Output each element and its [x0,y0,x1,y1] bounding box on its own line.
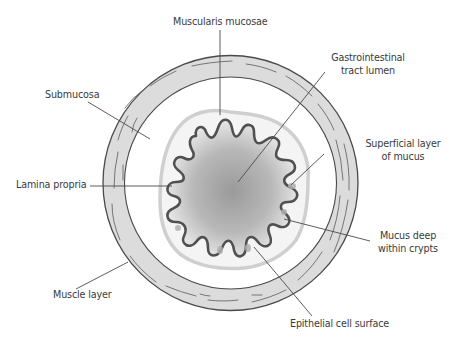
label-mucus-crypts: Mucus deep within crypts [368,230,448,255]
label-superficial-mucus-line1: Superficial layer [357,138,449,151]
label-lamina-propria: Lamina propria [16,179,86,192]
label-muscle-layer: Muscle layer [53,289,112,302]
label-submucosa: Submucosa [45,89,99,102]
leader-muscle-layer [76,262,128,289]
label-muscularis-mucosae: Muscularis mucosae [173,16,268,29]
label-mucus-crypts-line1: Mucus deep [368,230,448,243]
label-epithelial-surface: Epithelial cell surface [290,318,389,331]
label-gi-lumen-line1: Gastrointestinal [318,52,418,65]
label-gi-lumen-line2: tract lumen [318,65,418,78]
label-gi-lumen: Gastrointestinal tract lumen [318,52,418,77]
label-superficial-mucus: Superficial layer of mucus [357,138,449,163]
label-mucus-crypts-line2: within crypts [368,243,448,256]
label-superficial-mucus-line2: of mucus [357,151,449,164]
